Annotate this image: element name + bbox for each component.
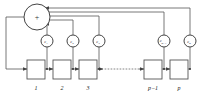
coefficient-node-c2: c2 xyxy=(67,35,79,47)
tap-junction-cp xyxy=(189,68,191,70)
diagram-canvas: + c1 c2 c3 cp−1 cp xyxy=(0,0,200,96)
signal-flow-diagram: + c1 c2 c3 cp−1 cp xyxy=(0,0,200,96)
summing-junction: + xyxy=(24,4,50,30)
stage-label-3: 3 xyxy=(86,85,90,91)
feedback-wires xyxy=(45,6,191,35)
feedback-wire-cp1 xyxy=(45,12,164,35)
tap-junction-cp1 xyxy=(163,68,165,70)
coefficient-node-c1: c1 xyxy=(41,35,53,47)
delay-box-1 xyxy=(27,60,45,79)
stage-label-p-1: p−1 xyxy=(147,85,158,91)
delay-box-2 xyxy=(53,60,71,79)
stage-label-p: p xyxy=(177,85,181,91)
coefficient-nodes: c1 c2 c3 cp−1 cp xyxy=(41,35,196,47)
feedback-wire-c3 xyxy=(45,16,99,35)
output-wire xyxy=(6,17,27,69)
coefficient-node-cp1: cp−1 xyxy=(158,35,170,47)
delay-box-3 xyxy=(79,60,97,79)
summing-junction-symbol: + xyxy=(35,13,40,22)
delay-box-p xyxy=(170,60,188,79)
tap-junction-c1 xyxy=(46,68,48,70)
stage-label-1: 1 xyxy=(35,85,38,91)
summer-output-path xyxy=(6,17,28,71)
stage-labels: 1 2 3 p−1 p xyxy=(35,85,181,91)
tap-junction-c3 xyxy=(98,68,100,70)
delay-box-p-1 xyxy=(144,60,162,79)
coefficient-node-c3: c3 xyxy=(93,35,105,47)
tap-junction-c2 xyxy=(72,68,74,70)
coefficient-node-cp: cp xyxy=(184,35,196,47)
stage-label-2: 2 xyxy=(61,85,64,91)
